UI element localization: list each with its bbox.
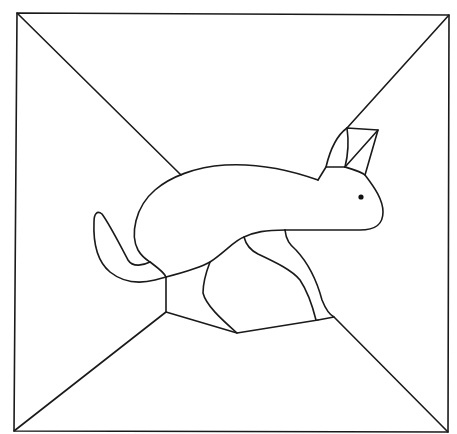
hare-front-leg	[244, 237, 316, 320]
hare-body	[134, 165, 318, 262]
corner-line-bottom-left	[14, 312, 166, 431]
hare-hind-leg	[166, 277, 318, 333]
tail-to-body-line	[150, 262, 166, 277]
hare-head	[285, 167, 383, 230]
hare-front-leg-outer	[285, 230, 334, 320]
hare-drawing	[0, 0, 457, 434]
frame	[14, 13, 449, 432]
hare-tail	[94, 212, 166, 282]
hare-eye	[358, 194, 363, 199]
hare-ear	[318, 128, 378, 180]
hare-hind-leg-front-edge	[203, 262, 237, 333]
corner-line-top-right	[347, 15, 449, 128]
corner-line-bottom-right	[334, 317, 448, 432]
hare-belly	[166, 230, 285, 277]
corner-line-top-left	[17, 13, 181, 175]
